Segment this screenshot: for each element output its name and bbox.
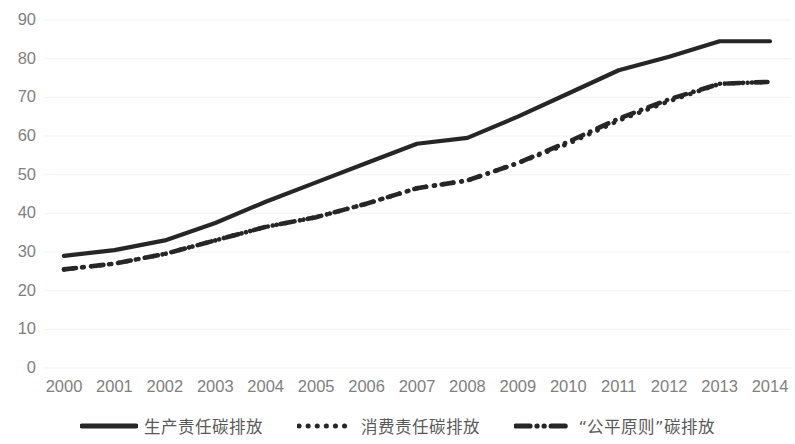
x-axis-tick-label: 2006 xyxy=(342,378,392,395)
series-line-2 xyxy=(64,82,770,270)
legend-item-1[interactable]: 生产责任碳排放 xyxy=(80,414,263,438)
legend-swatch-dash-dot-icon xyxy=(514,419,572,433)
y-axis-tick-label: 0 xyxy=(0,359,36,376)
legend-label: 消费责任碳排放 xyxy=(361,414,480,438)
chart-legend: 生产责任碳排放消费责任碳排放“公平原则”碳排放 xyxy=(0,408,795,444)
y-axis-tick-label: 10 xyxy=(0,320,36,337)
line-chart: 0102030405060708090 20002001200220032004… xyxy=(0,0,795,444)
y-axis-tick-label: 70 xyxy=(0,88,36,105)
series-lines xyxy=(64,41,770,269)
x-axis-tick-label: 2013 xyxy=(695,378,745,395)
x-axis-tick-label: 2002 xyxy=(140,378,190,395)
x-axis-tick-label: 2008 xyxy=(442,378,492,395)
x-axis-tick-label: 2009 xyxy=(493,378,543,395)
legend-item-3[interactable]: “公平原则”碳排放 xyxy=(514,414,714,438)
x-axis-tick-label: 2003 xyxy=(190,378,240,395)
y-axis-tick-label: 50 xyxy=(0,166,36,183)
gridlines xyxy=(44,20,791,368)
x-axis-tick-label: 2012 xyxy=(644,378,694,395)
legend-label: 生产责任碳排放 xyxy=(144,414,263,438)
legend-swatch-solid-icon xyxy=(80,419,138,433)
y-axis-tick-label: 20 xyxy=(0,282,36,299)
x-axis-tick-label: 2011 xyxy=(594,378,644,395)
legend-swatch-dotted-icon xyxy=(297,419,355,433)
legend-label: “公平原则”碳排放 xyxy=(578,414,714,438)
legend-item-2[interactable]: 消费责任碳排放 xyxy=(297,414,480,438)
x-axis-tick-label: 2005 xyxy=(291,378,341,395)
y-axis-tick-label: 60 xyxy=(0,127,36,144)
y-axis-tick-label: 90 xyxy=(0,11,36,28)
y-axis-tick-label: 30 xyxy=(0,243,36,260)
y-axis-tick-label: 40 xyxy=(0,204,36,221)
x-axis-tick-label: 2001 xyxy=(89,378,139,395)
x-axis-tick-label: 2004 xyxy=(241,378,291,395)
x-axis-tick-label: 2014 xyxy=(745,378,795,395)
x-axis-tick-label: 2000 xyxy=(39,378,89,395)
series-line-3 xyxy=(64,82,770,270)
x-axis-tick-label: 2007 xyxy=(392,378,442,395)
x-axis-tick-label: 2010 xyxy=(543,378,593,395)
y-axis-tick-label: 80 xyxy=(0,50,36,67)
series-line-1 xyxy=(64,41,770,256)
